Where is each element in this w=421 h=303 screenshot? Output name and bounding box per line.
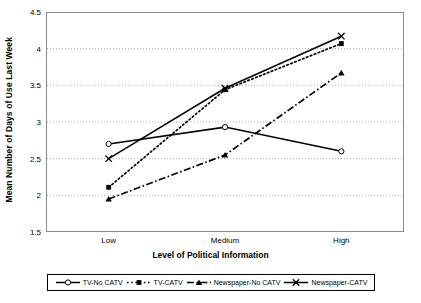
x-axis-tick-label: Medium	[211, 236, 239, 245]
data-point-open-circle	[339, 149, 344, 154]
legend-key-open-circle	[55, 277, 81, 288]
y-axis-tick-labels: 1.522.533.544.5	[14, 0, 44, 240]
data-point-filled-square	[339, 41, 344, 46]
legend-item: TV-CATV	[126, 277, 183, 288]
gridlines	[47, 49, 403, 196]
legend-label: TV-No CATV	[83, 279, 123, 286]
data-point-open-circle	[65, 280, 70, 285]
y-axis-title: Mean Number of Days of Use Last Week	[4, 37, 14, 202]
data-point-open-circle	[222, 125, 227, 130]
data-point-filled-triangle	[338, 70, 344, 76]
data-point-filled-square	[136, 280, 141, 285]
legend-label: TV-CATV	[154, 279, 183, 286]
x-axis-tick-label: Low	[101, 236, 116, 245]
legend-key-x-cross	[283, 277, 309, 288]
y-axis-tick-label: 2.5	[15, 154, 44, 163]
plot-svg	[46, 12, 404, 232]
chart-legend: TV-No CATVTV-CATVNewspaper-No CATVNewspa…	[47, 274, 375, 291]
plot-area	[46, 12, 404, 232]
y-axis-tick-label: 2	[15, 191, 44, 200]
series-tv-catv	[106, 41, 344, 190]
series-layer	[105, 33, 344, 202]
legend-item: Newspaper-No CATV	[186, 277, 281, 288]
series-line	[109, 44, 342, 188]
legend-key-filled-square	[126, 277, 152, 288]
data-point-x-cross	[338, 33, 344, 39]
y-axis-tick-label: 3.5	[15, 81, 44, 90]
y-axis-tick-label: 4	[15, 44, 44, 53]
legend-label: Newspaper-CATV	[311, 279, 367, 286]
data-point-filled-square	[106, 185, 111, 190]
y-axis-tick-label: 4.5	[15, 8, 44, 17]
x-axis-tick-label: High	[333, 236, 349, 245]
legend-key-filled-triangle	[186, 277, 212, 288]
series-newspaper-catv	[105, 33, 344, 162]
y-axis-tick-label: 3	[15, 118, 44, 127]
legend-label: Newspaper-No CATV	[214, 279, 281, 286]
legend-item: Newspaper-CATV	[283, 277, 367, 288]
legend-item: TV-No CATV	[55, 277, 123, 288]
data-point-open-circle	[106, 141, 111, 146]
x-axis-title: Level of Political Information	[0, 250, 421, 260]
series-line	[109, 127, 342, 151]
line-chart: Mean Number of Days of Use Last Week 1.5…	[0, 0, 421, 303]
